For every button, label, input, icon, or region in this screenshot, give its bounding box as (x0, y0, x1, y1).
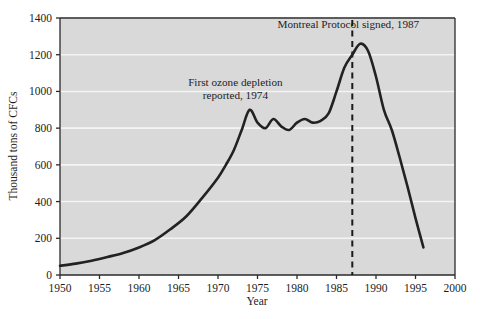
x-tick-label: 1955 (88, 282, 111, 294)
y-tick-label: 800 (35, 122, 53, 134)
x-tick-label: 1995 (404, 282, 427, 294)
y-tick-label: 200 (35, 232, 53, 244)
x-tick-label: 1990 (365, 282, 388, 294)
x-tick-label: 1965 (167, 282, 190, 294)
y-tick-label: 1200 (29, 49, 52, 61)
x-tick-label: 1970 (207, 282, 230, 294)
x-tick-label: 1975 (246, 282, 269, 294)
x-tick-label: 1980 (286, 282, 309, 294)
annotation-montreal-protocol: Montreal Protocol signed, 1987 (277, 18, 419, 30)
x-tick-label: 2000 (444, 282, 467, 294)
x-tick-label: 1960 (128, 282, 151, 294)
y-tick-label: 1400 (29, 12, 52, 24)
cfc-production-line-chart: 0200400600800100012001400 19501955196019… (0, 0, 490, 319)
y-axis-title: Thousand tons of CFCs (7, 91, 19, 200)
y-tick-label: 600 (35, 159, 53, 171)
x-axis-title: Year (246, 295, 267, 307)
y-tick-label: 0 (46, 269, 52, 281)
y-tick-label: 1000 (29, 85, 52, 97)
chart-figure: 0200400600800100012001400 19501955196019… (0, 0, 490, 319)
y-tick-label: 400 (35, 196, 53, 208)
x-tick-label: 1985 (325, 282, 348, 294)
x-tick-label: 1950 (49, 282, 72, 294)
